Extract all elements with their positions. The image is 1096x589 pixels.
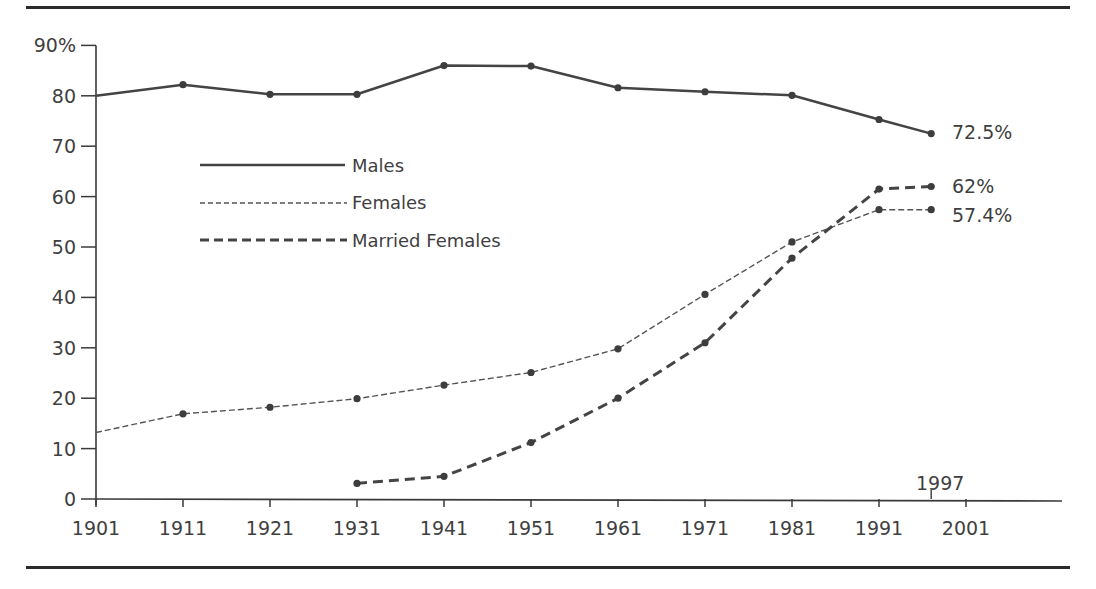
axes: 0102030405060708090%19011911192119311941…	[34, 34, 1062, 539]
data-point-marker	[701, 88, 708, 95]
x-tick-label: 1941	[420, 517, 468, 539]
x-tick-label: 2001	[942, 517, 990, 539]
data-point-marker	[614, 84, 621, 91]
year-1997-annotation: 1997	[916, 472, 964, 494]
data-point-marker	[440, 381, 447, 388]
x-tick-label: 1901	[72, 517, 120, 539]
y-tick-label: 20	[52, 387, 76, 409]
data-point-marker	[440, 62, 447, 69]
y-tick-label: 80	[52, 85, 76, 107]
data-point-marker	[788, 92, 795, 99]
data-point-marker	[875, 206, 882, 213]
data-point-marker	[179, 81, 186, 88]
x-tick-label: 1981	[768, 517, 816, 539]
series-males-line	[96, 66, 931, 134]
x-tick-label: 1951	[507, 517, 555, 539]
legend-married-label: Married Females	[352, 230, 501, 251]
data-point-marker	[788, 238, 795, 245]
data-point-marker	[353, 395, 360, 402]
legend: Males Females Married Females	[200, 155, 501, 251]
x-tick-label: 1961	[594, 517, 642, 539]
data-point-marker	[875, 185, 882, 192]
data-point-marker	[614, 345, 621, 352]
legend-males-label: Males	[352, 155, 404, 176]
x-tick-label: 1971	[681, 517, 729, 539]
x-tick-label: 1911	[159, 517, 207, 539]
y-tick-label: 60	[52, 186, 76, 208]
series-lines	[96, 62, 935, 487]
x-tick-label: 1991	[855, 517, 903, 539]
data-point-marker	[928, 206, 935, 213]
legend-females-label: Females	[352, 192, 426, 213]
line-chart: 0102030405060708090%19011911192119311941…	[0, 0, 1096, 589]
males-end-label: 72.5%	[952, 121, 1012, 143]
data-point-marker	[928, 183, 935, 190]
females-end-label: 57.4%	[952, 204, 1012, 226]
data-point-marker	[928, 130, 935, 137]
series-females-line	[96, 210, 931, 433]
bottom-rule	[26, 566, 1070, 569]
data-point-marker	[527, 439, 534, 446]
data-point-marker	[788, 254, 795, 261]
y-tick-label: 10	[52, 438, 76, 460]
y-tick-label: 90%	[34, 34, 76, 56]
x-tick-label: 1921	[246, 517, 294, 539]
x-tick-label: 1931	[333, 517, 381, 539]
data-point-marker	[614, 395, 621, 402]
married-end-label: 62%	[952, 175, 994, 197]
data-point-marker	[353, 480, 360, 487]
y-tick-label: 40	[52, 286, 76, 308]
data-point-marker	[266, 404, 273, 411]
data-point-marker	[266, 91, 273, 98]
data-point-marker	[440, 473, 447, 480]
x-axis	[96, 499, 1062, 501]
y-tick-label: 30	[52, 337, 76, 359]
y-tick-label: 0	[64, 488, 76, 510]
data-point-marker	[701, 339, 708, 346]
y-tick-label: 70	[52, 135, 76, 157]
data-point-marker	[527, 62, 534, 69]
y-tick-label: 50	[52, 236, 76, 258]
data-point-marker	[179, 410, 186, 417]
data-point-marker	[875, 116, 882, 123]
data-point-marker	[353, 91, 360, 98]
data-point-marker	[527, 369, 534, 376]
end-labels: 72.5% 62% 57.4% 1997	[916, 121, 1012, 494]
data-point-marker	[701, 291, 708, 298]
